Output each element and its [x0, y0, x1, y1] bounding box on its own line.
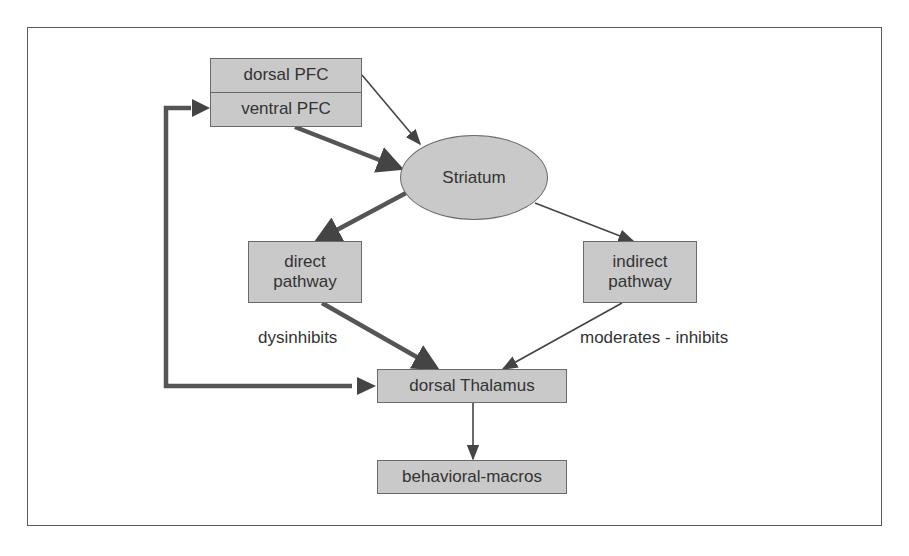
node-behavioral-macros-label: behavioral-macros [402, 467, 542, 487]
node-dorsal-pfc: dorsal PFC [211, 59, 361, 93]
node-ventral-pfc: ventral PFC [211, 93, 361, 127]
edge-striatum-to-indirect [535, 203, 633, 241]
edge-ventral-pfc-to-striatum [295, 127, 400, 168]
edge-label-dysinhibits: dysinhibits [258, 328, 337, 348]
edge-label-moderates-inhibits: moderates - inhibits [580, 328, 728, 348]
pfc-node-group: dorsal PFC ventral PFC [210, 58, 362, 127]
node-direct-pathway: direct pathway [248, 241, 362, 303]
arrowhead-into-ventral-pfc [192, 99, 210, 117]
node-indirect-pathway-label: indirect pathway [608, 252, 671, 292]
node-indirect-pathway: indirect pathway [583, 241, 697, 303]
edge-direct-to-thalamus [322, 303, 436, 368]
node-dorsal-thalamus: dorsal Thalamus [377, 369, 567, 403]
node-striatum-label: Striatum [442, 168, 505, 188]
edge-striatum-to-direct [318, 193, 406, 240]
node-direct-pathway-label: direct pathway [273, 252, 336, 292]
edge-dorsal-pfc-to-striatum [362, 75, 420, 144]
arrowhead-into-thalamus [357, 377, 376, 395]
node-striatum: Striatum [400, 135, 548, 220]
node-dorsal-thalamus-label: dorsal Thalamus [409, 376, 534, 396]
node-behavioral-macros: behavioral-macros [377, 460, 567, 494]
